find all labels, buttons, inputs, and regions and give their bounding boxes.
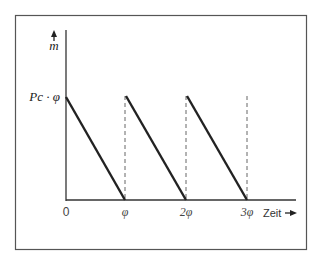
x-tick-2: 2φ — [180, 205, 193, 219]
series-segment-1 — [66, 97, 125, 200]
x-axis-label: Zeit — [263, 207, 281, 219]
chart: m Pc · φ 0 φ 2φ 3φ Zeit — [0, 0, 322, 262]
series-segment-2 — [126, 96, 186, 200]
x-axis-arrow-icon — [290, 210, 297, 216]
x-tick-1: φ — [122, 205, 129, 219]
x-tick-0: 0 — [63, 205, 70, 219]
x-tick-3: 3φ — [240, 205, 254, 219]
y-tick-label: Pc · φ — [28, 89, 60, 104]
y-axis-label: m — [49, 38, 58, 53]
series-segment-3 — [187, 96, 247, 200]
